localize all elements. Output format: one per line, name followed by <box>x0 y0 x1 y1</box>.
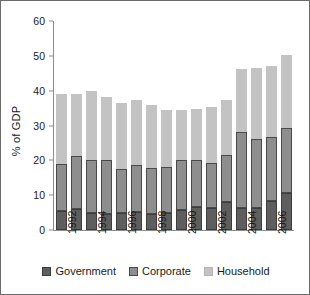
bar-segment-corporate <box>56 164 67 211</box>
bar-segment-household <box>251 68 262 139</box>
bar-segment-corporate <box>131 165 142 212</box>
bar-segment-corporate <box>221 155 232 202</box>
bar-segment-household <box>56 94 67 164</box>
bar-stack <box>71 21 82 230</box>
bar-stack <box>101 21 112 230</box>
bar-segment-household <box>71 94 82 156</box>
bar-stack <box>236 21 247 230</box>
x-axis-tick-label: 1996 <box>126 211 138 234</box>
bar-segment-corporate <box>71 156 82 209</box>
x-axis-tick-label: 1994 <box>96 211 108 234</box>
legend-swatch-household-icon <box>204 267 213 276</box>
y-axis-tick-label: 0 <box>19 224 45 236</box>
y-axis-tick-label: 10 <box>19 189 45 201</box>
y-axis-tick-label: 60 <box>19 15 45 27</box>
legend-label-household: Household <box>217 265 270 277</box>
bar-stack <box>56 21 67 230</box>
bar-segment-corporate <box>161 167 172 212</box>
bar-stack <box>116 21 127 230</box>
bar-segment-household <box>236 69 247 133</box>
y-axis-tick-label: 30 <box>19 120 45 132</box>
bar-segment-household <box>266 66 277 137</box>
bar-segment-household <box>86 91 97 160</box>
bar-segment-corporate <box>86 160 97 213</box>
legend-item-household: Household <box>204 265 270 277</box>
y-axis-tick-label: 40 <box>19 85 45 97</box>
bar-segment-corporate <box>266 137 277 201</box>
legend-item-corporate: Corporate <box>129 265 191 277</box>
bar-segment-household <box>131 100 142 164</box>
bar-segment-household <box>161 110 172 167</box>
x-axis-tick-label: 2004 <box>246 211 258 234</box>
bar-segment-corporate <box>236 132 247 208</box>
bar-segment-household <box>221 100 232 154</box>
chart-figure: % of GDP 0102030405060 19921994199619982… <box>0 0 310 295</box>
bar-segment-household <box>206 107 217 163</box>
legend-label-corporate: Corporate <box>142 265 191 277</box>
bar-segment-corporate <box>116 169 127 213</box>
bar-stack <box>191 21 202 230</box>
legend-swatch-government-icon <box>42 267 51 276</box>
bar-segment-household <box>146 105 157 168</box>
bar-stack <box>281 21 292 230</box>
bar-segment-household <box>281 55 292 128</box>
x-axis-tick-label: 2006 <box>276 211 288 234</box>
x-axis-tick-label: 1998 <box>156 211 168 234</box>
bars-container <box>54 21 294 230</box>
bar-stack <box>161 21 172 230</box>
x-axis-tick-label: 1992 <box>66 211 78 234</box>
bar-segment-household <box>191 109 202 160</box>
bar-segment-household <box>101 97 112 160</box>
plot-area: % of GDP 0102030405060 19921994199619982… <box>1 1 310 295</box>
chart-legend: Government Corporate Household <box>1 265 310 277</box>
bar-stack <box>206 21 217 230</box>
bar-segment-corporate <box>206 163 217 207</box>
legend-item-government: Government <box>42 265 116 277</box>
y-axis-tick-label: 50 <box>19 50 45 62</box>
bar-segment-corporate <box>176 160 187 209</box>
legend-label-government: Government <box>55 265 116 277</box>
bar-segment-corporate <box>191 160 202 207</box>
bar-stack <box>86 21 97 230</box>
bar-stack <box>266 21 277 230</box>
bar-segment-corporate <box>101 160 112 214</box>
legend-swatch-corporate-icon <box>129 267 138 276</box>
x-axis-tick-label: 2002 <box>216 211 228 234</box>
bar-segment-corporate <box>281 128 292 192</box>
bar-segment-household <box>176 110 187 161</box>
y-axis-tick-label: 20 <box>19 154 45 166</box>
bar-segment-corporate <box>146 168 157 213</box>
bar-segment-corporate <box>251 139 262 208</box>
bar-stack <box>131 21 142 230</box>
bar-segment-household <box>116 103 127 170</box>
bar-stack <box>146 21 157 230</box>
bar-stack <box>251 21 262 230</box>
bar-stack <box>221 21 232 230</box>
bar-stack <box>176 21 187 230</box>
x-axis-tick-label: 2000 <box>186 211 198 234</box>
